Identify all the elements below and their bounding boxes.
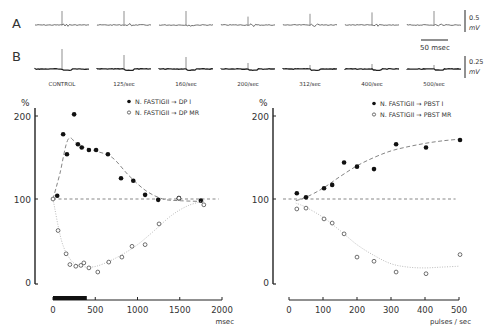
data-point-open [202, 203, 206, 207]
x-axis-label: msec [215, 318, 234, 326]
data-point-filled [87, 148, 92, 153]
data-point-open [295, 207, 299, 211]
data-point-open [143, 243, 147, 247]
data-point-filled [143, 193, 148, 198]
data-point-open [107, 260, 111, 264]
data-point-filled [394, 142, 399, 147]
data-point-open [424, 272, 428, 276]
data-point-open [304, 206, 308, 210]
fit-curve-filled [296, 139, 459, 200]
data-point-open [64, 252, 68, 256]
data-point-open [87, 266, 91, 270]
x-tick-label: 500 [87, 305, 103, 315]
data-point-filled [94, 148, 99, 153]
data-point-filled [76, 142, 81, 147]
data-point-open [56, 229, 60, 233]
data-point-open [372, 259, 376, 263]
row-label-a: A [12, 16, 21, 31]
legend-label: N. FASTIGII → PBST MR [380, 111, 452, 118]
legend-label: N. FASTIGII → DP I [135, 98, 191, 105]
scale-b-value: 0.25 [469, 58, 483, 66]
data-point-open [120, 255, 124, 259]
data-point-filled [106, 152, 111, 157]
data-point-open [68, 263, 72, 267]
legend-label: N. FASTIGII → PBST I [380, 100, 443, 107]
row-label-b: B [12, 49, 21, 64]
y-axis-label: % [21, 98, 30, 108]
traces-group: CONTROL125/sec160/sec200/sec312/sec400/s… [35, 11, 461, 87]
x-tick-label: 0 [50, 305, 55, 315]
x-axis-label: pulses / sec [430, 318, 471, 326]
data-point-filled [355, 164, 360, 169]
data-point-open [74, 264, 78, 268]
x-tick-label: 1500 [169, 305, 191, 315]
data-point-filled [72, 112, 77, 117]
data-point-open [130, 244, 134, 248]
chart-right: %01002000100200300400500pulses / secN. F… [252, 98, 471, 326]
data-point-open [394, 270, 398, 274]
x-tick-label: 1000 [127, 305, 149, 315]
chart-left: %01002000500100015002000msecN. FASTIGII … [14, 98, 234, 326]
x-tick-label: 300 [383, 305, 399, 315]
x-tick-label: 200 [349, 305, 365, 315]
data-point-open [322, 217, 326, 221]
data-point-filled [322, 186, 327, 191]
data-point-open [96, 270, 100, 274]
data-point-filled [79, 145, 84, 150]
data-point-filled [199, 198, 204, 203]
stimulus-bar [53, 296, 87, 300]
y-tick-label: 0 [263, 278, 269, 288]
y-tick-label: 100 [252, 195, 269, 205]
data-point-filled [458, 138, 463, 143]
scale-b-unit: mV [469, 68, 480, 76]
data-point-open [51, 197, 55, 201]
data-point-open [157, 222, 161, 226]
trace-column-label: 500/sec [423, 81, 445, 87]
data-point-filled [119, 176, 124, 181]
data-point-filled [330, 183, 335, 188]
y-tick-label: 0 [25, 278, 31, 288]
data-point-open [458, 253, 462, 257]
data-point-filled [156, 198, 161, 203]
trace-column-label: 160/sec [175, 81, 197, 87]
data-point-filled [55, 193, 60, 198]
data-point-open [355, 255, 359, 259]
data-point-open [82, 261, 86, 265]
data-point-filled [372, 167, 377, 172]
y-axis-label: % [259, 98, 268, 108]
fit-curve-filled [53, 138, 205, 202]
data-point-open [342, 232, 346, 236]
data-point-filled [342, 160, 347, 165]
data-point-filled [61, 132, 66, 137]
data-point-open [330, 221, 334, 225]
fit-curve-open [53, 199, 205, 267]
y-tick-label: 200 [252, 112, 269, 122]
data-point-filled [131, 178, 136, 183]
x-tick-label: 2000 [211, 305, 233, 315]
trace-column-label: 125/sec [113, 81, 135, 87]
figure: A B CONTROL125/sec160/sec200/sec312/sec4… [0, 0, 491, 336]
trace-column-label: 312/sec [299, 81, 321, 87]
legend-marker-filled [127, 100, 131, 104]
data-point-filled [304, 195, 309, 200]
trace-column-label: 400/sec [361, 81, 383, 87]
y-tick-label: 200 [14, 112, 31, 122]
scale-a-value: 0.5 [469, 14, 479, 22]
x-tick-label: 400 [417, 305, 433, 315]
legend-label: N. FASTIGII → DP MR [135, 109, 200, 116]
data-point-filled [424, 145, 429, 150]
trace-column-label: CONTROL [49, 81, 77, 87]
data-point-filled [295, 191, 300, 196]
x-tick-label: 100 [315, 305, 331, 315]
fit-curve-open [296, 203, 459, 268]
data-point-filled [65, 152, 70, 157]
x-tick-label: 500 [451, 305, 467, 315]
time-scale-label: 50 msec [420, 44, 450, 52]
trace-column-label: 200/sec [237, 81, 259, 87]
legend-marker-open [372, 113, 375, 116]
y-tick-label: 100 [14, 195, 31, 205]
legend-marker-filled [372, 102, 376, 106]
x-tick-label: 0 [286, 305, 291, 315]
scale-a-unit: mV [469, 24, 480, 32]
legend-marker-open [127, 111, 130, 114]
